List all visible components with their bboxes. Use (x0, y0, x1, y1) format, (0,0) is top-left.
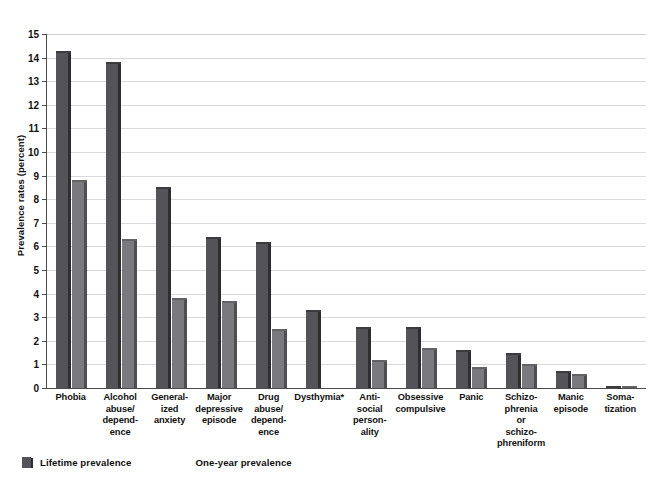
bar (472, 367, 487, 388)
bar (306, 310, 321, 388)
chart-legend: Lifetime prevalenceOne-year prevalence (22, 457, 292, 468)
legend-swatch-lifetime (22, 457, 33, 468)
bar-side (318, 312, 321, 388)
bar-face (356, 327, 368, 388)
x-axis-label: Soma- tization (596, 392, 645, 454)
x-axis-label: Manic episode (546, 392, 595, 454)
bar-side (418, 329, 421, 388)
bar-top (56, 51, 71, 53)
bar (422, 348, 437, 388)
bar-top (422, 348, 437, 350)
bar-face (406, 327, 418, 388)
bar-side (484, 369, 487, 388)
bar-face (472, 367, 484, 388)
bar (556, 371, 571, 388)
y-tick-label-0: 0 (33, 383, 39, 394)
cropped-title-remnant (40, 0, 640, 7)
x-axis-label: Drug abuse/ depend- ence (244, 392, 293, 454)
bar (456, 350, 471, 388)
bar-face (456, 350, 468, 388)
bar-face (522, 364, 534, 388)
bar-top (456, 350, 471, 352)
bar-top (406, 327, 421, 329)
bar (206, 237, 221, 388)
y-tick-label-1: 1 (33, 359, 39, 370)
y-tick-label-10: 10 (28, 147, 39, 158)
bar-side (168, 189, 171, 388)
legend-label: Lifetime prevalence (40, 457, 131, 468)
bar-face (272, 329, 284, 388)
bar-side (368, 329, 371, 388)
bar-face (156, 187, 168, 388)
y-tick-label-2: 2 (33, 335, 39, 346)
bar-group (197, 34, 247, 388)
bar-side (234, 303, 237, 388)
bar-group (47, 34, 97, 388)
plot-area: 1514131211109876543210 (46, 34, 646, 389)
y-tick-label-15: 15 (28, 29, 39, 40)
bar-top (622, 386, 637, 388)
bar (156, 187, 171, 388)
bar-face (422, 348, 434, 388)
bar-side (518, 355, 521, 388)
bar-side (534, 366, 537, 388)
bar (506, 353, 521, 388)
bar-group (297, 34, 347, 388)
bar (106, 62, 121, 388)
y-tick-label-8: 8 (33, 194, 39, 205)
y-tick-label-3: 3 (33, 312, 39, 323)
bar-top (172, 298, 187, 300)
bar-side (118, 64, 121, 388)
y-tick-label-13: 13 (28, 76, 39, 87)
bar (372, 360, 387, 388)
legend-label: One-year prevalence (195, 457, 291, 468)
bar-top (106, 62, 121, 64)
bar-face (306, 310, 318, 388)
y-tick-label-9: 9 (33, 170, 39, 181)
y-tick-label-11: 11 (28, 123, 39, 134)
bar-group (396, 34, 446, 388)
bar-face (556, 371, 568, 388)
bar-top (472, 367, 487, 369)
bar-top (222, 301, 237, 303)
bar-side (468, 352, 471, 388)
bar (56, 51, 71, 388)
bar-group (546, 34, 596, 388)
bar-face (106, 62, 118, 388)
bar-group (596, 34, 646, 388)
bar (622, 386, 637, 388)
bar-top (272, 329, 287, 331)
bar-top (306, 310, 321, 312)
y-tick-label-12: 12 (28, 99, 39, 110)
y-tick-label-14: 14 (28, 52, 39, 63)
bar-top (506, 353, 521, 355)
bar (606, 386, 621, 388)
y-tick-label-6: 6 (33, 241, 39, 252)
bar-side (284, 331, 287, 388)
bar-face (122, 239, 134, 388)
bar-face (256, 242, 268, 388)
bar-top (72, 180, 87, 182)
bar-group (496, 34, 546, 388)
x-axis-label: Schizo- phrenia or schizo- phreniform (496, 392, 546, 454)
bar (122, 239, 137, 388)
x-axis-category-labels: PhobiaAlcohol abuse/ depend- enceGeneral… (46, 392, 645, 454)
bar-side (384, 362, 387, 388)
bar-face (172, 298, 184, 388)
bar-face (572, 374, 584, 388)
bar-face (56, 51, 68, 388)
y-axis-title: Prevalence rates (percent) (15, 96, 26, 296)
legend-item: One-year prevalence (177, 457, 291, 468)
legend-swatch-one_year (177, 457, 188, 468)
bar-side (184, 300, 187, 388)
bar-top (356, 327, 371, 329)
bar-top (556, 371, 571, 373)
bar-face (72, 180, 84, 388)
y-tick-label-5: 5 (33, 265, 39, 276)
bar-side (134, 241, 137, 388)
x-axis-label: General- ized anxiety (145, 392, 194, 454)
bar-top (206, 237, 221, 239)
bar-side (584, 376, 587, 388)
x-axis-label: Major depressive episode (194, 392, 244, 454)
x-axis-label: Obsessive compulsive (394, 392, 446, 454)
